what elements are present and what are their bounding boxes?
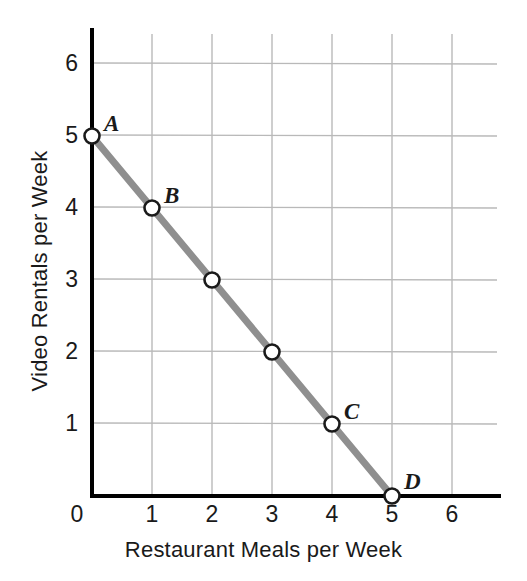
point-label-a: A [104, 112, 119, 135]
marker-point-unlabeled-2 [265, 345, 280, 360]
gridline-y-5 [92, 135, 497, 136]
marker-point-c [325, 417, 340, 432]
x-tick-label-0: 0 [62, 503, 92, 526]
marker-point-unlabeled-1 [205, 273, 220, 288]
point-label-c: C [344, 400, 359, 423]
chart-figure: A B C D 6 5 4 3 2 1 0 1 2 3 4 5 6 Restau… [0, 0, 527, 581]
gridline-y-2 [92, 351, 497, 352]
x-tick-label-6: 6 [437, 503, 467, 526]
budget-constraint-line [92, 136, 392, 496]
point-label-d: D [404, 470, 421, 493]
gridline-y-3 [92, 279, 497, 280]
x-axis-title: Restaurant Meals per Week [0, 537, 527, 563]
point-label-b: B [164, 184, 179, 207]
y-tick-label-6: 6 [48, 52, 78, 75]
x-tick-label-3: 3 [257, 503, 287, 526]
x-tick-label-1: 1 [137, 503, 167, 526]
x-tick-label-5: 5 [377, 503, 407, 526]
marker-point-b [145, 201, 160, 216]
plot-canvas [0, 0, 527, 581]
marker-point-a [85, 129, 100, 144]
x-tick-label-2: 2 [197, 503, 227, 526]
gridline-y-6 [92, 63, 497, 64]
x-tick-label-4: 4 [317, 503, 347, 526]
horizontal-gridlines [92, 63, 497, 424]
gridline-y-1 [92, 423, 497, 424]
y-axis-title: Video Rentals per Week [27, 121, 53, 421]
